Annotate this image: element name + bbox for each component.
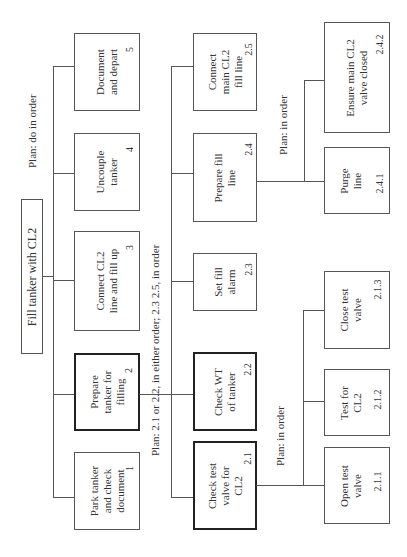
task-4-label: Uncoupletanker bbox=[94, 151, 120, 194]
task-3-label: Connect CL2line and fill up bbox=[94, 249, 120, 313]
connector-t242 bbox=[304, 80, 324, 81]
task-2-2-box: Check WTof tanker 2.2 bbox=[193, 352, 257, 431]
task-2-5-label: Connectmain CL2fill line bbox=[206, 50, 245, 94]
task-2-1-2-label: Test forCL2 bbox=[338, 386, 364, 420]
plan-task-2-1: Plan: in order bbox=[274, 406, 286, 466]
task-2-1-1-box: Open testvalve 2.1.1 bbox=[324, 447, 390, 524]
task-2-1-3-label: Close testvalve bbox=[338, 288, 364, 331]
task-2-1-1-label: Open testvalve bbox=[338, 465, 364, 507]
connector-t21 bbox=[171, 497, 193, 498]
task-2-1-3-box: Close testvalve 2.1.3 bbox=[324, 271, 390, 349]
level1-bus bbox=[53, 66, 54, 498]
task-2-label: Preparetanker forfilling bbox=[88, 370, 127, 413]
connector-t241 bbox=[304, 181, 324, 182]
task-2-4-2-label: Ensure main CL2valve closed bbox=[344, 39, 370, 117]
task-2-4-box: Prepare fillline 2.4 bbox=[193, 133, 257, 222]
connector-t212 bbox=[303, 401, 324, 402]
task-2-box: Preparetanker forfilling 2 bbox=[74, 353, 140, 431]
root-connector bbox=[42, 276, 53, 277]
task-2-3-box: Set fillalarm 2.3 bbox=[193, 253, 257, 311]
task-2-5-box: Connectmain CL2fill line 2.5 bbox=[193, 33, 257, 111]
task-2-1-number: 2.1 bbox=[242, 452, 253, 465]
task-1-label: Park tankerand checkdocument bbox=[88, 466, 127, 516]
task-2-3-label: Set fillalarm bbox=[212, 267, 238, 297]
level2-bus bbox=[171, 66, 172, 498]
connector-t22 bbox=[171, 394, 193, 395]
connector-t25 bbox=[171, 66, 193, 67]
connector-t4 bbox=[53, 173, 74, 174]
root-task-label: Fill tanker with CL2 bbox=[26, 227, 39, 325]
task-2-1-bus bbox=[303, 310, 304, 486]
task-2-4-2-box: Ensure main CL2valve closed 2.4.2 bbox=[324, 22, 390, 133]
task-2-4-bus bbox=[304, 80, 305, 182]
connector-t3 bbox=[53, 280, 74, 281]
task-2-4-2-number: 2.4.2 bbox=[374, 35, 385, 55]
task-2-1-2-box: Test forCL2 2.1.2 bbox=[324, 369, 390, 436]
task-3-box: Connect CL2line and fill up 3 bbox=[74, 231, 140, 331]
connector-t213 bbox=[303, 310, 324, 311]
plan-task-2: Plan: 2.1 or 2.2, in either order; 2.3 2… bbox=[149, 245, 161, 456]
task-2-2-number: 2.2 bbox=[242, 363, 253, 376]
task-2-1-connector bbox=[256, 485, 303, 486]
task-2-1-1-number: 2.1.1 bbox=[372, 472, 383, 492]
task-4-box: Uncoupletanker 4 bbox=[74, 133, 140, 211]
connector-t211 bbox=[303, 485, 324, 486]
task-5-label: Documentand depart bbox=[94, 49, 120, 95]
connector-t24 bbox=[171, 173, 193, 174]
connector-t23 bbox=[171, 281, 193, 282]
task-2-5-number: 2.5 bbox=[243, 43, 254, 56]
connector-t2 bbox=[53, 394, 74, 395]
task-2-4-connector bbox=[256, 181, 304, 182]
task-2-2-label: Check WTof tanker bbox=[212, 368, 238, 416]
task-2-4-number: 2.4 bbox=[243, 143, 254, 156]
task-2-1-label: Check testvalve forCL2 bbox=[206, 462, 245, 508]
task-2-4-1-label: Purgeline bbox=[338, 168, 364, 193]
task-2-4-label: Prepare fillline bbox=[212, 153, 238, 202]
task-3-number: 3 bbox=[124, 245, 135, 250]
task-1-number: 1 bbox=[124, 466, 135, 471]
task-2-3-number: 2.3 bbox=[243, 263, 254, 276]
task-2-1-3-number: 2.1.3 bbox=[372, 280, 383, 300]
plan-task-2-4: Plan: in order bbox=[277, 95, 289, 155]
task-2-1-2-number: 2.1.2 bbox=[372, 390, 383, 410]
task-2-number: 2 bbox=[123, 368, 134, 373]
task-2-1-box: Check testvalve forCL2 2.1 bbox=[193, 441, 257, 530]
connector-t1 bbox=[53, 497, 74, 498]
task-5-number: 5 bbox=[124, 47, 135, 52]
task-2-4-1-number: 2.4.1 bbox=[374, 174, 385, 194]
root-task-box: Fill tanker with CL2 bbox=[21, 199, 43, 354]
task-2-4-1-box: Purgeline 2.4.1 bbox=[324, 147, 390, 214]
plan-level-0: Plan: do in order bbox=[26, 94, 38, 168]
task-1-box: Park tankerand checkdocument 1 bbox=[74, 452, 140, 530]
task-5-box: Documentand depart 5 bbox=[74, 33, 140, 111]
task-4-number: 4 bbox=[124, 147, 135, 152]
connector-t5 bbox=[53, 66, 74, 67]
